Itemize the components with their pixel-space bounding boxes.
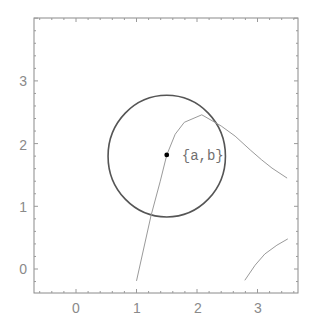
y-tick-label-1: 1 (19, 199, 27, 215)
point-label: {a,b} (182, 148, 224, 164)
curve-main (137, 115, 288, 281)
y-tick-label-2: 2 (19, 137, 27, 153)
x-tick-label-3: 3 (254, 300, 262, 316)
chart: {a,b} 0 1 2 3 0 1 2 3 (0, 0, 309, 328)
x-tick-label-1: 1 (133, 300, 141, 316)
curve-lower-right (245, 239, 288, 280)
x-tick-label-2: 2 (194, 300, 202, 316)
point-ab (164, 152, 169, 157)
x-tick-label-0: 0 (72, 300, 80, 316)
y-tick-label-3: 3 (19, 73, 27, 89)
y-tick-label-0: 0 (19, 261, 27, 277)
